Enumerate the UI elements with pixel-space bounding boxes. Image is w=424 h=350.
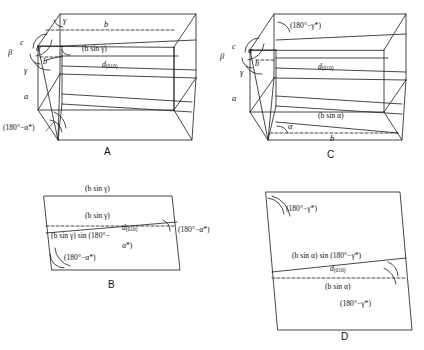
panel-b-label-b-sin-gamma-sin-line2: α*): [122, 242, 132, 250]
panel-b-label-d010: d(010): [122, 224, 137, 233]
d-subscript: (010): [106, 63, 118, 69]
panel-b-label-b-sin-gamma-sin-line1: (b sin γ) sin (180°−: [51, 232, 110, 240]
panel-c-label-180-gamma: (180°−γ*): [290, 22, 321, 30]
panel-c-label-beta: β: [220, 52, 224, 61]
panel-d-letter: D: [341, 332, 348, 342]
panel-b-label-180-alpha-right: (180°−α*): [178, 226, 210, 234]
panel-a-label-b-edge: b: [104, 20, 108, 29]
d-subscript: (010): [126, 226, 138, 232]
panel-c-label-gamma: γ: [240, 68, 243, 77]
panel-b-letter: B: [108, 280, 115, 290]
d-subscript: (010): [322, 65, 334, 71]
figure-canvas: [0, 0, 424, 350]
panel-c-label-alpha: α: [248, 46, 252, 55]
panel-c-label-b-bottom: b: [330, 134, 334, 143]
panel-a-label-beta: β: [8, 48, 12, 57]
panel-c-label-a: a: [232, 94, 236, 103]
panel-c-drawing: [242, 14, 406, 140]
panel-c-label-b-sin-alpha: (b sin α): [318, 112, 344, 120]
panel-a-label-b: b: [43, 57, 47, 66]
d-subscript: (010): [334, 267, 346, 273]
panel-a-label-gamma-mid: γ: [24, 66, 27, 75]
panel-b-label-b-sin-gamma-inner: (b sin γ): [85, 212, 110, 220]
panel-c-letter: C: [327, 150, 334, 160]
panel-a-label-d010: d(010): [102, 61, 117, 70]
panel-b-label-b-sin-gamma-top: (b sin γ): [85, 185, 110, 193]
panel-a-label-180-alpha: (180°−α*): [3, 124, 35, 132]
panel-a-label-a: a: [24, 92, 28, 101]
panel-a-letter: A: [104, 147, 111, 157]
panel-d-label-180-gamma-top: (180°−γ*): [286, 205, 317, 213]
panel-c-label-d010: d(010): [318, 63, 333, 72]
panel-c-label-c: c: [232, 42, 236, 51]
panel-d-label-b-sin-alpha-sin: (b sin α) sin (180°−γ*): [292, 252, 361, 260]
panel-a-label-gamma-top: γ: [63, 16, 66, 25]
panel-c-label-alpha-bottom: α: [288, 122, 292, 131]
panel-b-label-180-alpha-left: (180°−α*): [64, 254, 96, 262]
panel-a-label-c: c: [20, 38, 24, 47]
panel-a-label-b-sin-gamma: (b sin γ): [82, 45, 107, 53]
panel-c-label-b: b: [255, 59, 259, 68]
panel-d-label-180-gamma-bottom: (180°−γ*): [340, 300, 371, 308]
panel-a-label-alpha: α: [36, 44, 40, 53]
panel-d-label-d010: d(010): [330, 265, 345, 274]
panel-a-drawing: [30, 14, 196, 140]
panel-d-label-b-sin-alpha: (b sin α): [325, 283, 351, 291]
